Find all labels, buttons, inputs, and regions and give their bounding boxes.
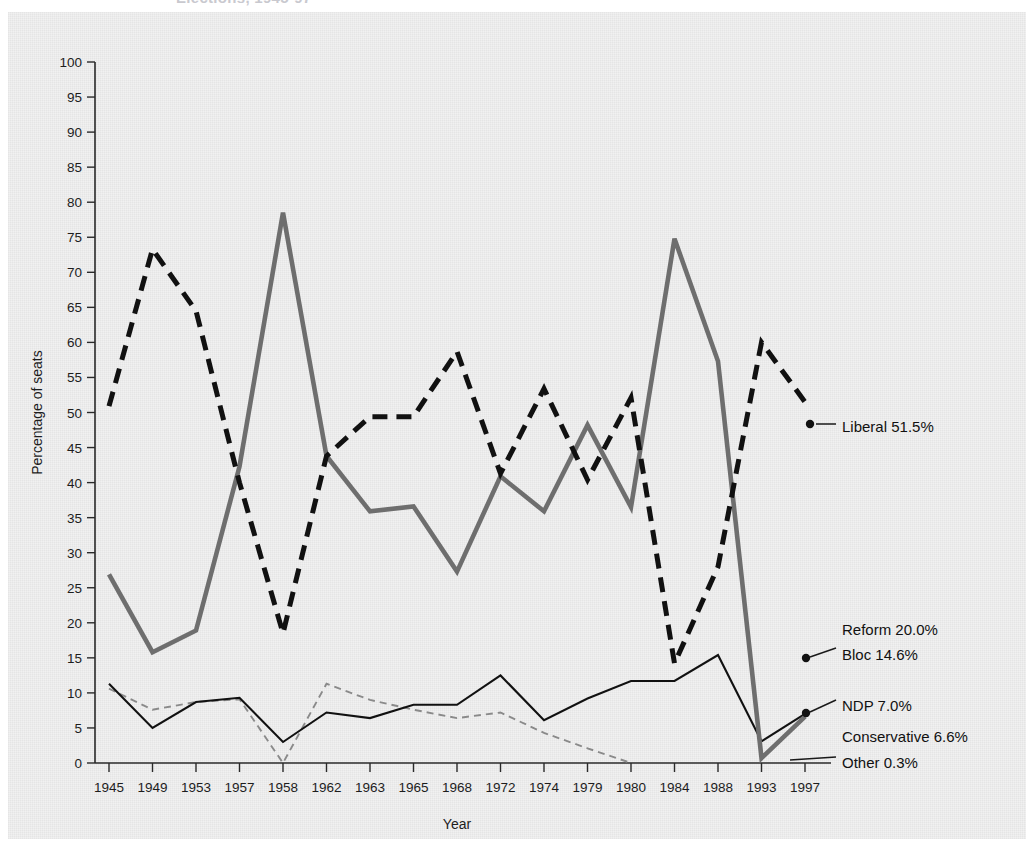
figure-root: Elections, 1945-97 051015202530354045505… — [0, 0, 1036, 861]
annotation-marker-dot — [802, 709, 810, 717]
series-line-other — [109, 684, 631, 763]
x-axis-tick-label: 1958 — [268, 780, 298, 795]
annotation-leader-line — [810, 700, 836, 712]
y-axis-tick-label: 85 — [67, 160, 82, 175]
y-axis-tick-label: 60 — [67, 335, 82, 350]
annotations-group: Liberal 51.5%Reform 20.0%Bloc 14.6%NDP 7… — [790, 418, 968, 771]
x-axis-tick-label: 1957 — [224, 780, 254, 795]
x-axis-tick-label: 1963 — [355, 780, 385, 795]
x-axis-tick-label: 1965 — [398, 780, 428, 795]
y-axis-tick-label: 40 — [67, 476, 82, 491]
x-axis-tick-label: 1974 — [529, 780, 560, 795]
y-axis-tick-label: 5 — [74, 721, 82, 736]
x-axis-tick-label: 1984 — [659, 780, 690, 795]
y-axis-tick-label: 50 — [67, 406, 82, 421]
y-axis-tick-label: 15 — [67, 651, 82, 666]
annotation-leader-line — [790, 757, 836, 760]
annotation-label: Conservative 6.6% — [842, 728, 968, 745]
y-axis-tick-label: 10 — [67, 686, 82, 701]
series-group — [109, 213, 805, 763]
series-line-ndp — [109, 655, 805, 742]
y-axis-tick-label: 25 — [67, 581, 82, 596]
y-axis-tick-label: 55 — [67, 370, 82, 385]
annotation-label: Other 0.3% — [842, 754, 918, 771]
x-axis-tick-label: 1972 — [485, 780, 515, 795]
annotation-label: Reform 20.0% — [842, 621, 938, 638]
y-axis-tick-label: 75 — [67, 230, 82, 245]
y-axis-tick-label: 65 — [67, 300, 82, 315]
annotation-leader-line — [810, 648, 836, 657]
x-axis-tick-label: 1962 — [311, 780, 341, 795]
annotation-marker-dot — [802, 654, 810, 662]
y-axis-tick-label: 35 — [67, 511, 82, 526]
x-axis-tick-label: 1968 — [442, 780, 472, 795]
series-line-conservative — [109, 213, 805, 758]
y-axis-tick-label: 0 — [74, 756, 82, 771]
y-axis-tick-label: 100 — [59, 55, 82, 70]
y-axis-tick-label: 20 — [67, 616, 82, 631]
y-axis-tick-label: 95 — [67, 90, 82, 105]
annotation-label: NDP 7.0% — [842, 697, 912, 714]
y-axis-tick-label: 30 — [67, 546, 82, 561]
annotation-marker-dot — [806, 420, 814, 428]
y-axis-tick-label: 90 — [67, 125, 82, 140]
x-axis-tick-label: 1993 — [746, 780, 776, 795]
x-axis-tick-label: 1997 — [790, 780, 820, 795]
x-axis-tick-label: 1953 — [181, 780, 211, 795]
x-axis-tick-label: 1979 — [572, 780, 602, 795]
y-axis-tick-label: 70 — [67, 265, 82, 280]
x-axis-group: 1945194919531957195819621963196519681972… — [94, 763, 831, 795]
y-axis-tick-label: 80 — [67, 195, 82, 210]
annotation-label: Liberal 51.5% — [842, 418, 934, 435]
y-axis-title: Percentage of seats — [29, 350, 45, 475]
line-chart-svg: 0510152025303540455055606570758085909510… — [0, 0, 1036, 861]
x-axis-tick-label: 1945 — [94, 780, 124, 795]
x-axis-tick-label: 1949 — [137, 780, 167, 795]
x-axis-tick-label: 1980 — [616, 780, 646, 795]
x-axis-title: Year — [443, 816, 472, 832]
annotation-label: Bloc 14.6% — [842, 646, 918, 663]
y-axis-group: 0510152025303540455055606570758085909510… — [59, 55, 95, 771]
y-axis-tick-label: 45 — [67, 441, 82, 456]
x-axis-tick-label: 1988 — [703, 780, 733, 795]
